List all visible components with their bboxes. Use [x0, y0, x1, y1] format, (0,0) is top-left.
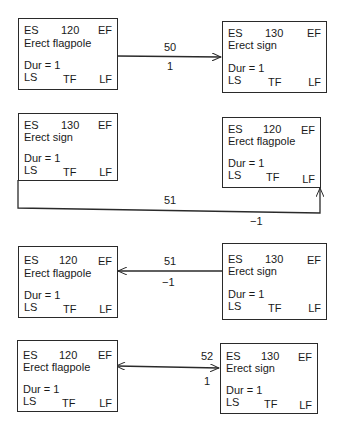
duration: Dur = 1	[228, 62, 264, 74]
ls-label: LS	[24, 71, 37, 83]
ls-label: LS	[228, 169, 241, 181]
activity-id: 120	[263, 123, 281, 135]
ef-label: EF	[298, 351, 312, 363]
d3-link-lag: −1	[162, 276, 175, 288]
d4-link-lag: 1	[204, 375, 210, 387]
activity-name: Erect sign	[24, 131, 73, 143]
d2-link-type: 51	[164, 194, 176, 206]
lf-label: LF	[308, 76, 321, 88]
activity-name: Erect flagpole	[228, 135, 295, 147]
tf-label: TF	[268, 302, 281, 314]
ls-label: LS	[226, 396, 239, 408]
ls-label: LS	[24, 164, 37, 176]
es-label: ES	[226, 350, 241, 362]
ef-label: EF	[301, 124, 315, 136]
es-label: ES	[23, 349, 38, 361]
activity-id: 130	[265, 253, 283, 265]
es-label: ES	[228, 253, 243, 265]
es-label: ES	[228, 27, 243, 39]
ef-label: EF	[98, 349, 112, 361]
activity-id: 120	[61, 24, 79, 36]
lf-label: LF	[99, 73, 112, 85]
duration: Dur = 1	[228, 157, 264, 169]
tf-label: TF	[63, 166, 76, 178]
activity-name: Erect sign	[228, 39, 277, 51]
d2-link-lag: −1	[250, 215, 263, 227]
activity-id: 130	[261, 350, 279, 362]
activity-id: 130	[61, 119, 79, 131]
es-label: ES	[24, 119, 39, 131]
activity-name: Erect flagpole	[24, 267, 91, 279]
d1-activity-right: ES 130 EF Erect sign Dur = 1 LS TF LF	[222, 21, 327, 93]
d4-activity-left: ES 120 EF Erect flagpole Dur = 1 LS TF L…	[17, 340, 118, 412]
duration: Dur = 1	[24, 289, 60, 301]
tf-label: TF	[266, 171, 279, 183]
activity-id: 120	[59, 349, 77, 361]
ef-label: EF	[98, 255, 112, 267]
ls-label: LS	[228, 300, 241, 312]
d3-activity-left: ES 120 EF Erect flagpole Dur = 1 LS TF L…	[18, 246, 118, 318]
ef-label: EF	[98, 119, 112, 131]
duration: Dur = 1	[24, 152, 60, 164]
duration: Dur = 1	[226, 384, 262, 396]
tf-label: TF	[62, 397, 75, 409]
d3-activity-right: ES 130 EF Erect sign Dur = 1 LS TF LF	[222, 243, 327, 320]
duration: Dur = 1	[24, 59, 60, 71]
d2-activity-left: ES 130 EF Erect sign Dur = 1 LS TF LF	[18, 113, 118, 181]
activity-name: Erect sign	[228, 265, 277, 277]
lf-label: LF	[302, 173, 315, 185]
lf-label: LF	[308, 302, 321, 314]
tf-label: TF	[63, 303, 76, 315]
es-label: ES	[24, 24, 39, 36]
d3-link-type: 51	[164, 255, 176, 267]
ls-label: LS	[23, 395, 36, 407]
d1-activity-left: ES 120 EF Erect flagpole Dur = 1 LS TF L…	[18, 18, 118, 90]
d1-link-type: 50	[164, 41, 176, 53]
es-label: ES	[24, 254, 39, 266]
d2-activity-right: ES 120 EF Erect flagpole Dur = 1 LS TF L…	[222, 117, 321, 188]
ls-label: LS	[24, 301, 37, 313]
tf-label: TF	[268, 76, 281, 88]
duration: Dur = 1	[23, 383, 59, 395]
activity-name: Erect sign	[226, 362, 275, 374]
ef-label: EF	[98, 24, 112, 36]
activity-name: Erect flagpole	[24, 37, 91, 49]
d4-link-arrow	[117, 366, 219, 368]
activity-id: 120	[59, 254, 77, 266]
tf-label: TF	[63, 73, 76, 85]
activity-name: Erect flagpole	[23, 361, 90, 373]
lf-label: LF	[99, 303, 112, 315]
d1-link-arrow	[117, 56, 221, 57]
ls-label: LS	[228, 74, 241, 86]
tf-label: TF	[264, 398, 277, 410]
duration: Dur = 1	[228, 288, 264, 300]
lf-label: LF	[299, 399, 312, 411]
d1-link-lag: 1	[167, 60, 173, 72]
es-label: ES	[228, 123, 243, 135]
d4-activity-right: ES 130 EF Erect sign Dur = 1 LS TF LF	[220, 343, 318, 414]
ef-label: EF	[307, 254, 321, 266]
ef-label: EF	[307, 27, 321, 39]
lf-label: LF	[99, 397, 112, 409]
lf-label: LF	[99, 166, 112, 178]
d4-link-type: 52	[201, 350, 213, 362]
activity-id: 130	[265, 27, 283, 39]
